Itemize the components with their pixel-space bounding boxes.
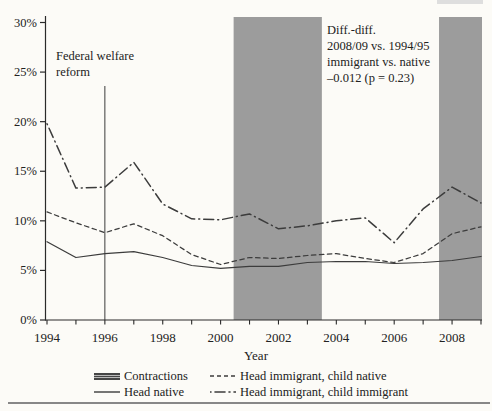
legend-item-head-native: Head native: [94, 384, 210, 400]
diff-diff-annotation: Diff.-diff. 2008/09 vs. 1994/95 immigran…: [327, 22, 430, 86]
x-tick-label: 2000: [208, 330, 234, 345]
diff-diff-line1: Diff.-diff.: [327, 22, 430, 38]
legend-label-head-native: Head native: [124, 385, 184, 400]
y-tick-label: 15%: [14, 164, 37, 178]
x-tick-label: 1998: [150, 330, 176, 345]
dashed-line-swatch: [210, 372, 236, 380]
x-axis-title: Year: [206, 348, 306, 364]
x-tick-label: 1996: [92, 330, 119, 345]
x-tick-label: 1994: [34, 330, 61, 345]
solid-line-swatch: [94, 388, 120, 396]
contraction-band: [234, 17, 322, 320]
y-tick-label: 5%: [20, 263, 37, 277]
welfare-reform-annotation: Federal welfare reform: [56, 48, 134, 80]
y-tick-label: 10%: [14, 214, 37, 228]
x-tick-label: 2002: [265, 330, 291, 345]
x-tick-label: 2004: [323, 330, 350, 345]
diff-diff-line3: immigrant vs. native: [327, 54, 430, 70]
legend-item-head-immigrant-child-immigrant: Head immigrant, child immigrant: [210, 384, 408, 400]
contractions-swatch: [94, 373, 120, 380]
x-tick-label: 2008: [439, 330, 465, 345]
y-tick-label: 20%: [14, 115, 37, 129]
diff-diff-line4: –0.012 (p = 0.23): [327, 70, 430, 86]
legend-column-1: Contractions Head native: [94, 368, 210, 400]
legend-label-head-immigrant-child-immigrant: Head immigrant, child immigrant: [240, 385, 408, 400]
legend-item-head-immigrant-child-native: Head immigrant, child native: [210, 368, 408, 384]
welfare-reform-line1: Federal welfare: [56, 48, 134, 64]
bottom-rule: [8, 402, 490, 404]
contraction-band: [439, 17, 482, 320]
y-tick-label: 25%: [14, 65, 37, 79]
legend-column-2: Head immigrant, child native Head immigr…: [210, 368, 408, 400]
legend-label-contractions: Contractions: [124, 369, 188, 384]
welfare-reform-line2: reform: [56, 64, 134, 80]
legend: Contractions Head native Head immigrant,…: [94, 368, 408, 400]
legend-label-head-immigrant-child-native: Head immigrant, child native: [240, 369, 386, 384]
dashdot-line-swatch: [210, 388, 236, 396]
legend-item-contractions: Contractions: [94, 368, 210, 384]
y-tick-label: 0%: [20, 313, 37, 327]
welfare-participation-figure: 0%5%10%15%20%25%30%199419961998200020022…: [0, 0, 492, 411]
diff-diff-line2: 2008/09 vs. 1994/95: [327, 38, 430, 54]
y-tick-label: 30%: [14, 16, 37, 30]
x-tick-label: 2006: [381, 330, 408, 345]
